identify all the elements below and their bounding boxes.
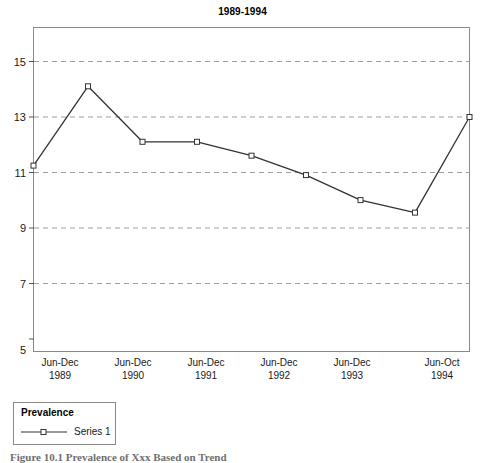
data-point-marker [358,198,363,203]
y-axis-label-13: 13 [0,111,26,123]
figure-caption: Figure 10.1 Prevalence of Xxx Based on T… [10,451,410,463]
legend-title: Prevalence [21,407,74,418]
data-point-marker [304,173,309,178]
data-point-marker [31,163,36,168]
data-point-marker [413,210,418,215]
y-axis-label-7: 7 [0,278,26,290]
y-axis-label-11: 11 [0,167,26,179]
series-1-line [34,86,470,212]
series-1-markers [31,84,472,215]
chart-legend: Prevalence Series 1 [13,402,116,445]
data-point-marker [195,139,200,144]
x-axis-year-1994: 1994 [399,370,485,383]
data-point-marker [249,153,254,158]
x-axis-period-1993: Jun-Dec [309,357,395,370]
legend-line-marker-icon [19,425,69,439]
y-axis-label-15: 15 [0,56,26,68]
plot-frame [34,28,470,352]
y-axis-label-5: 5 [0,344,26,356]
x-axis-year-1993: 1993 [309,370,395,383]
legend-label-series-1: Series 1 [74,426,111,437]
data-point-marker [86,84,91,89]
gridlines [34,62,469,284]
x-axis-period-1994: Jun-Oct [399,357,485,370]
data-point-marker [467,115,472,120]
data-point-marker [140,139,145,144]
x-axis-label-1994: Jun-Oct 1994 [399,357,485,382]
y-axis-label-9: 9 [0,222,26,234]
x-axis-label-1993: Jun-Dec 1993 [309,357,395,382]
legend-entry-series-1[interactable]: Series 1 [19,425,114,441]
